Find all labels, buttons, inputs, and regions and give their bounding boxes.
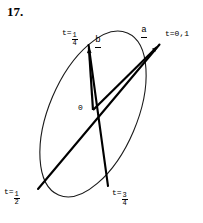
marker-t-quarter-fraction: 14 bbox=[72, 32, 78, 46]
vector-a-letter: a bbox=[141, 25, 146, 35]
fraction-numerator: 3 bbox=[122, 192, 128, 199]
marker-t-zero-one: t=0,1 bbox=[165, 30, 189, 38]
ellipse-curve bbox=[18, 16, 168, 212]
origin-label: 0 bbox=[78, 103, 83, 112]
fraction-numerator: 1 bbox=[72, 32, 78, 39]
vector-a-label: a bbox=[141, 26, 147, 38]
fraction-denominator: 4 bbox=[122, 199, 128, 207]
figure-container: 17. 0 b a t=14 t=0,1 t=12 bbox=[0, 0, 203, 223]
marker-t-quarter-text: t= bbox=[62, 28, 72, 37]
fraction-denominator: 4 bbox=[72, 39, 78, 47]
vector-a bbox=[93, 47, 157, 110]
vector-a-underbar bbox=[141, 37, 147, 38]
marker-t-half: t=12 bbox=[4, 188, 20, 206]
marker-t-three-quarters: t=34 bbox=[112, 189, 128, 207]
marker-t-zero-one-text: t=0,1 bbox=[165, 29, 189, 38]
fraction-numerator: 1 bbox=[14, 191, 20, 198]
vector-b-letter: b bbox=[95, 35, 100, 45]
marker-t-half-text: t= bbox=[4, 187, 14, 196]
fraction-denominator: 2 bbox=[14, 198, 20, 206]
vector-b-label: b bbox=[95, 36, 101, 48]
marker-t-half-fraction: 12 bbox=[14, 191, 20, 205]
marker-t-quarter: t=14 bbox=[62, 29, 78, 47]
chord-b-axis bbox=[89, 45, 108, 186]
marker-t-three-quarters-fraction: 34 bbox=[122, 192, 128, 206]
vector-b-underbar bbox=[95, 47, 101, 48]
marker-t-three-quarters-text: t= bbox=[112, 188, 122, 197]
